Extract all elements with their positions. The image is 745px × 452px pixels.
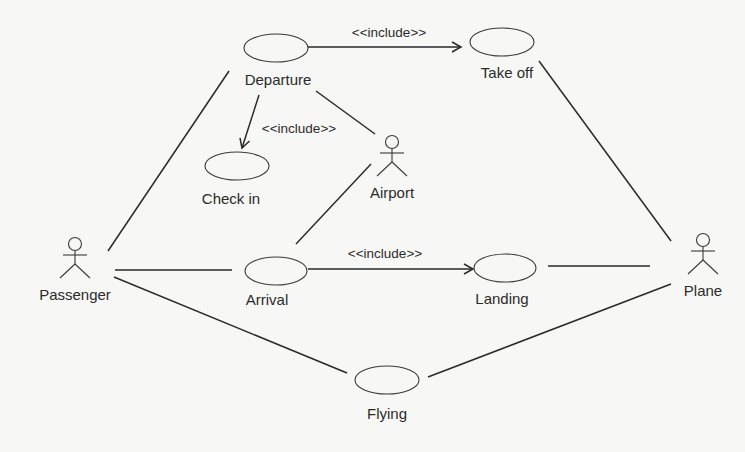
use-case-ellipse[interactable] [244, 34, 308, 62]
use-case-ellipse[interactable] [355, 366, 419, 394]
include-departure-check_in: <<include>> [242, 95, 336, 148]
use-case-flying[interactable]: Flying [355, 366, 419, 422]
actor-airport[interactable]: Airport [370, 136, 415, 202]
include-arrow [242, 95, 259, 148]
actor-plane[interactable]: Plane [684, 234, 722, 300]
include-arrival-landing: <<include>> [308, 246, 473, 269]
associations-layer [108, 61, 671, 377]
use-case-label: Flying [367, 405, 407, 422]
actor-stick-figure-icon[interactable] [377, 136, 407, 177]
use-case-label: Take off [481, 64, 534, 81]
use-case-label: Landing [475, 290, 528, 307]
association-arrival-airport [296, 164, 371, 244]
actor-stick-figure-icon[interactable] [688, 234, 718, 275]
association-passenger-flying [114, 277, 347, 373]
use-case-label: Departure [245, 71, 312, 88]
use-case-ellipse[interactable] [474, 254, 536, 282]
use-case-ellipse[interactable] [470, 28, 534, 56]
include-stereotype-label: <<include>> [348, 246, 422, 261]
use-cases-layer: DepartureTake offCheck inArrivalLandingF… [202, 28, 536, 422]
use-case-arrival[interactable]: Arrival [245, 257, 307, 308]
association-take_off-plane [539, 61, 671, 241]
use-case-diagram: <<include>><<include>><<include>> Depart… [0, 0, 745, 452]
use-case-departure[interactable]: Departure [244, 34, 311, 88]
include-departure-take_off: <<include>> [308, 25, 461, 47]
include-stereotype-label: <<include>> [262, 121, 336, 136]
actor-passenger[interactable]: Passenger [39, 238, 111, 304]
use-case-label: Check in [202, 190, 260, 207]
use-case-label: Arrival [246, 291, 289, 308]
actors-layer: PassengerAirportPlane [39, 136, 722, 304]
actor-label: Airport [370, 184, 415, 201]
include-stereotype-label: <<include>> [352, 25, 426, 40]
use-case-landing[interactable]: Landing [474, 254, 536, 307]
use-case-check-in[interactable]: Check in [202, 152, 269, 207]
association-passenger-departure [108, 71, 229, 251]
use-case-ellipse[interactable] [245, 257, 307, 285]
use-case-ellipse[interactable] [205, 152, 269, 180]
actor-stick-figure-icon[interactable] [60, 238, 90, 279]
use-case-take-off[interactable]: Take off [470, 28, 534, 81]
association-flying-plane [428, 284, 671, 377]
actor-label: Passenger [39, 286, 111, 303]
actor-label: Plane [684, 282, 722, 299]
